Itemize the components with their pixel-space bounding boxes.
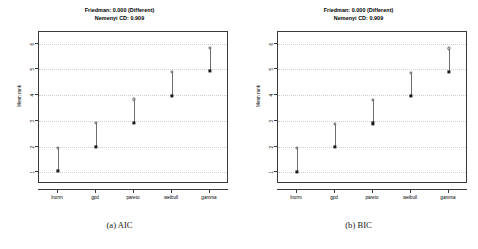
x-axis-tick-gpd [95, 189, 96, 193]
panel-bic-title: Friedman: 0.000 (Different) Nemenyi CD: … [239, 6, 478, 22]
cd-upper-marker-weibull [409, 71, 412, 74]
mean-rank-marker-gpd [94, 145, 97, 148]
x-axis-tick-lnorm [296, 189, 297, 193]
x-axis-tick-lnorm [57, 189, 58, 193]
y-axis-tick-label-1: 1 [270, 171, 275, 174]
gridline-y-2 [278, 147, 466, 148]
panel-bic-y-axis-label: Mean rank [256, 85, 261, 107]
cd-upper-marker-pareto [371, 98, 374, 101]
x-axis-label-gamma: gamma [440, 195, 455, 200]
cd-upper-marker-pareto [132, 98, 135, 101]
panel-aic-y-axis-label: Mean rank [17, 85, 22, 107]
panel-aic: Friedman: 0.000 (Different) Nemenyi CD: … [0, 0, 239, 249]
x-axis-tick-pareto [133, 189, 134, 193]
panel-aic-plot-inner [39, 32, 227, 182]
x-axis-label-weibull: weibull [403, 195, 417, 200]
panel-bic-plot-area [277, 31, 467, 183]
cd-upper-marker-lnorm [56, 146, 59, 149]
cd-interval-line-lnorm [297, 148, 298, 171]
cd-upper-marker-gpd [333, 122, 336, 125]
panel-aic-plot-area [38, 31, 228, 183]
y-axis-tick-label-5: 5 [270, 68, 275, 71]
cd-interval-line-weibull [411, 73, 412, 96]
panel-aic-title-line2: Nemenyi CD: 0.909 [0, 14, 239, 22]
gridline-y-5 [39, 69, 227, 70]
x-axis-label-lnorm: lnorm [290, 195, 302, 200]
gridline-y-5 [278, 69, 466, 70]
gridline-y-4 [39, 95, 227, 96]
x-axis-label-weibull: weibull [164, 195, 178, 200]
cd-upper-marker-gamma [208, 46, 211, 49]
panel-bic-title-line1: Friedman: 0.000 (Different) [239, 6, 478, 14]
gridline-y-6 [39, 44, 227, 45]
x-axis-tick-pareto [372, 189, 373, 193]
gridline-y-1 [39, 172, 227, 173]
x-axis-tick-gamma [209, 189, 210, 193]
cd-interval-line-gpd [96, 123, 97, 146]
gridline-y-2 [39, 147, 227, 148]
cd-interval-line-gpd [335, 124, 336, 147]
panel-aic-title-line1: Friedman: 0.000 (Different) [0, 6, 239, 14]
y-axis-tick-label-4: 4 [31, 94, 36, 97]
x-axis-tick-gpd [334, 189, 335, 193]
y-axis-tick-label-5: 5 [31, 68, 36, 71]
mean-rank-marker-gamma [208, 70, 211, 73]
gridline-y-4 [278, 95, 466, 96]
cd-interval-line-weibull [172, 72, 173, 95]
mean-rank-marker-gamma [447, 70, 450, 73]
panel-bic-plot-inner [278, 32, 466, 182]
x-axis-label-gpd: gpd [330, 195, 338, 200]
mean-rank-marker-pareto [132, 121, 135, 124]
gridline-y-1 [278, 172, 466, 173]
cd-interval-line-gamma [210, 48, 211, 71]
y-axis-tick-label-3: 3 [31, 120, 36, 123]
x-axis-label-pareto: pareto [365, 195, 378, 200]
cd-upper-marker-gamma [447, 47, 450, 50]
figure-nemenyi-comparison: Friedman: 0.000 (Different) Nemenyi CD: … [0, 0, 478, 249]
mean-rank-marker-lnorm [56, 170, 59, 173]
x-axis-label-lnorm: lnorm [51, 195, 63, 200]
mean-rank-marker-gpd [333, 146, 336, 149]
y-axis-tick-label-3: 3 [270, 120, 275, 123]
cd-interval-line-pareto [373, 100, 374, 123]
y-axis-tick-label-2: 2 [31, 146, 36, 149]
x-axis-label-gpd: gpd [91, 195, 99, 200]
cd-interval-line-gamma [449, 48, 450, 71]
x-axis-label-gamma: gamma [201, 195, 216, 200]
panel-bic-title-line2: Nemenyi CD: 0.909 [239, 14, 478, 22]
x-axis-tick-gamma [448, 189, 449, 193]
cd-interval-line-pareto [134, 99, 135, 122]
mean-rank-marker-weibull [170, 94, 173, 97]
panel-aic-title: Friedman: 0.000 (Different) Nemenyi CD: … [0, 6, 239, 22]
panel-aic-caption: (a) AIC [0, 220, 239, 230]
y-axis-tick-label-2: 2 [270, 146, 275, 149]
panel-bic: Friedman: 0.000 (Different) Nemenyi CD: … [239, 0, 478, 249]
y-axis-tick-label-1: 1 [31, 171, 36, 174]
cd-upper-marker-weibull [170, 71, 173, 74]
mean-rank-marker-lnorm [295, 170, 298, 173]
gridline-y-6 [278, 44, 466, 45]
cd-upper-marker-gpd [94, 122, 97, 125]
y-axis-tick-label-6: 6 [31, 43, 36, 46]
y-axis-tick-label-6: 6 [270, 43, 275, 46]
x-axis-label-pareto: pareto [126, 195, 139, 200]
y-axis-tick-label-4: 4 [270, 94, 275, 97]
mean-rank-marker-weibull [409, 95, 412, 98]
mean-rank-marker-pareto [371, 122, 374, 125]
cd-interval-line-lnorm [58, 148, 59, 171]
panel-bic-caption: (b) BIC [239, 220, 478, 230]
x-axis-tick-weibull [171, 189, 172, 193]
cd-upper-marker-lnorm [295, 147, 298, 150]
x-axis-tick-weibull [410, 189, 411, 193]
